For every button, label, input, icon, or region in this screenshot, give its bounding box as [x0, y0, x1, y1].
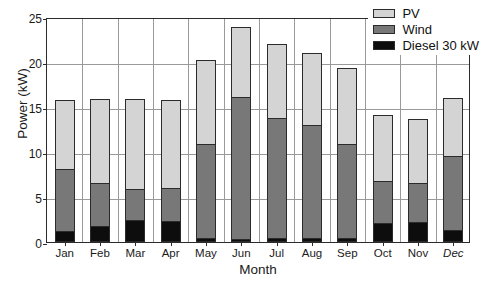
- month-slot: Jun: [224, 19, 259, 242]
- x-axis-tick-label: Nov: [408, 247, 428, 259]
- y-axis-tick-label: 0: [35, 237, 42, 251]
- month-slot: Sep: [330, 19, 365, 242]
- bar-segment-pv: [125, 99, 145, 191]
- x-axis-tick-label: Mar: [125, 247, 145, 259]
- bar-segment-diesel: [161, 221, 181, 242]
- x-axis-label: Month: [46, 262, 470, 277]
- x-axis-tick-mark: [277, 242, 278, 246]
- legend-label: Wind: [402, 23, 432, 36]
- stacked-bar[interactable]: [161, 101, 181, 242]
- month-slot: May: [188, 19, 223, 242]
- bar-segment-wind: [337, 144, 357, 239]
- x-axis-tick-mark: [453, 242, 454, 246]
- bar-segment-wind: [161, 188, 181, 222]
- y-axis-tick-label: 15: [29, 102, 42, 116]
- x-axis-tick-mark: [135, 242, 136, 246]
- legend-swatch-diesel: [373, 41, 395, 50]
- chart-figure: Power (kW) 0510152025 JanFebMarAprMayJun…: [0, 0, 487, 285]
- bar-segment-diesel: [373, 223, 393, 242]
- x-axis-tick-mark: [312, 242, 313, 246]
- x-axis-tick-label: May: [195, 247, 217, 259]
- x-axis-tick-mark: [100, 242, 101, 246]
- stacked-bar[interactable]: [337, 69, 357, 242]
- x-axis-tick-mark: [65, 242, 66, 246]
- x-axis-tick-label: Apr: [162, 247, 180, 259]
- stacked-bar[interactable]: [373, 116, 393, 242]
- legend-item-pv[interactable]: PV: [373, 7, 479, 20]
- bar-segment-wind: [231, 97, 251, 241]
- bar-segment-pv: [302, 53, 322, 127]
- bar-segment-pv: [196, 60, 216, 146]
- x-axis-tick-mark: [347, 242, 348, 246]
- stacked-bar[interactable]: [443, 99, 463, 242]
- stacked-bar[interactable]: [55, 102, 75, 242]
- y-axis-label: Power (kW): [15, 24, 30, 184]
- bar-segment-wind: [267, 118, 287, 240]
- month-slot: Mar: [118, 19, 153, 242]
- bar-segment-diesel: [55, 231, 75, 242]
- legend-label: PV: [402, 7, 419, 20]
- bar-segment-pv: [55, 100, 75, 169]
- legend-swatch-wind: [373, 25, 395, 34]
- bar-segment-pv: [373, 115, 393, 183]
- x-axis-tick-label: Oct: [374, 247, 392, 259]
- y-axis-tick-mark: [43, 244, 47, 245]
- bar-segment-pv: [267, 44, 287, 120]
- bar-segment-wind: [373, 181, 393, 224]
- bar-segment-pv: [337, 68, 357, 145]
- bar-segment-diesel: [125, 220, 145, 243]
- bar-segment-wind: [196, 144, 216, 239]
- x-axis-tick-label: Jul: [269, 247, 284, 259]
- month-slot: Apr: [153, 19, 188, 242]
- stacked-bar[interactable]: [90, 100, 110, 242]
- bar-segment-wind: [443, 156, 463, 232]
- month-slot: Jul: [259, 19, 294, 242]
- x-axis-tick-label: Aug: [302, 247, 322, 259]
- x-axis-tick-mark: [171, 242, 172, 246]
- legend-item-wind[interactable]: Wind: [373, 23, 479, 36]
- bar-segment-diesel: [90, 226, 110, 242]
- legend-item-diesel[interactable]: Diesel 30 kW: [373, 39, 479, 52]
- x-axis-tick-mark: [241, 242, 242, 246]
- stacked-bar[interactable]: [196, 61, 216, 242]
- x-axis-tick-label: Feb: [90, 247, 110, 259]
- x-axis-tick-label: Jun: [232, 247, 251, 259]
- chart-legend: PVWindDiesel 30 kW: [368, 4, 483, 55]
- bar-segment-pv: [90, 99, 110, 185]
- y-axis-tick-label: 5: [35, 192, 42, 206]
- x-axis-tick-label: Dec: [443, 247, 463, 259]
- x-axis-tick-mark: [418, 242, 419, 246]
- stacked-bar[interactable]: [302, 54, 322, 242]
- stacked-bar[interactable]: [231, 28, 251, 242]
- month-slot: Jan: [47, 19, 82, 242]
- bar-segment-wind: [90, 183, 110, 227]
- bar-segment-pv: [443, 98, 463, 157]
- y-axis-tick-label: 25: [29, 12, 42, 26]
- x-axis-tick-mark: [383, 242, 384, 246]
- bar-segment-wind: [302, 125, 322, 238]
- stacked-bar[interactable]: [267, 45, 287, 242]
- bar-segment-wind: [125, 189, 145, 221]
- x-axis-tick-label: Sep: [337, 247, 357, 259]
- y-axis-tick-label: 20: [29, 57, 42, 71]
- x-axis-tick-mark: [206, 242, 207, 246]
- legend-swatch-pv: [373, 9, 395, 18]
- x-axis-tick-label: Jan: [55, 247, 74, 259]
- stacked-bar[interactable]: [408, 120, 428, 242]
- bar-segment-wind: [408, 183, 428, 224]
- stacked-bar[interactable]: [125, 100, 145, 242]
- bar-segment-diesel: [443, 230, 463, 242]
- month-slot: Feb: [82, 19, 117, 242]
- bar-segment-wind: [55, 169, 75, 233]
- bar-segment-pv: [161, 100, 181, 190]
- bar-segment-pv: [231, 27, 251, 98]
- month-slot: Aug: [294, 19, 329, 242]
- bar-segment-diesel: [408, 222, 428, 242]
- legend-label: Diesel 30 kW: [402, 39, 479, 52]
- bar-segment-pv: [408, 119, 428, 184]
- y-axis-tick-label: 10: [29, 147, 42, 161]
